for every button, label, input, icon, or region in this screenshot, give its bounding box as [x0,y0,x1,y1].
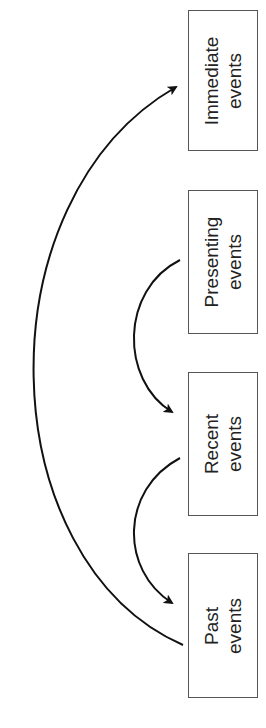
arrow-recent-to-past [134,458,180,603]
label-line1: Recent [200,414,223,474]
box-label: Presenting events [200,217,246,308]
label-line1: Past [200,598,223,654]
box-label: Immediate events [200,36,246,125]
box-recent-events: Recent events [188,372,258,516]
box-past-events: Past events [188,553,258,698]
label-line2: events [223,598,246,654]
arrow-presenting-to-recent [134,260,180,412]
box-label: Recent events [200,414,246,474]
box-presenting-events: Presenting events [188,190,258,334]
arrow-past-to-immediate [34,87,183,645]
label-line1: Immediate [200,36,223,125]
label-line2: events [223,414,246,474]
label-line2: events [223,36,246,125]
box-immediate-events: Immediate events [188,10,258,151]
label-line2: events [223,217,246,308]
box-label: Past events [200,598,246,654]
label-line1: Presenting [200,217,223,308]
